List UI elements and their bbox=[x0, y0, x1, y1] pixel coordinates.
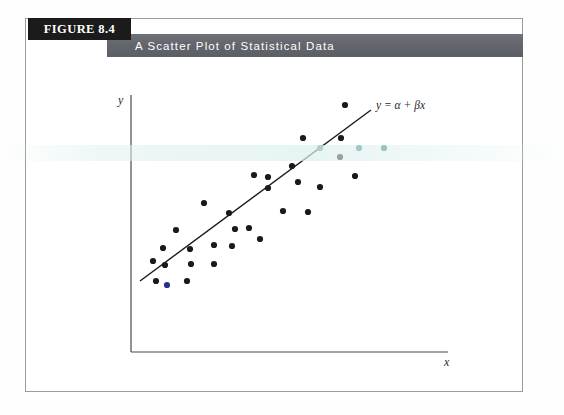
data-point bbox=[352, 173, 358, 179]
regression-line bbox=[140, 110, 371, 281]
data-point bbox=[211, 261, 217, 267]
plot-axes bbox=[131, 95, 448, 352]
data-points bbox=[150, 102, 387, 288]
figure-caption-text: A Scatter Plot of Statistical Data bbox=[107, 40, 335, 52]
figure-number-tag: FIGURE 8.4 bbox=[28, 18, 131, 40]
data-point bbox=[153, 278, 159, 284]
data-point bbox=[337, 154, 343, 160]
x-axis-label: x bbox=[443, 355, 450, 369]
data-point bbox=[188, 261, 194, 267]
plot-labels: yxy = α + βx bbox=[117, 93, 450, 369]
data-point bbox=[317, 184, 323, 190]
figure-number-label: FIGURE 8.4 bbox=[44, 22, 115, 37]
data-point bbox=[257, 236, 263, 242]
data-point bbox=[164, 282, 170, 288]
regression-line-segment bbox=[140, 110, 371, 281]
data-point bbox=[381, 145, 387, 151]
data-point bbox=[211, 242, 217, 248]
data-point bbox=[184, 278, 190, 284]
data-point bbox=[356, 145, 362, 151]
y-axis-label: y bbox=[117, 93, 124, 107]
data-point bbox=[201, 200, 207, 206]
data-point bbox=[162, 262, 168, 268]
data-point bbox=[338, 135, 344, 141]
data-point bbox=[342, 102, 348, 108]
data-point bbox=[289, 163, 295, 169]
data-point bbox=[317, 145, 323, 151]
data-point bbox=[251, 172, 257, 178]
data-point bbox=[265, 185, 271, 191]
regression-equation-label: y = α + βx bbox=[375, 99, 426, 112]
data-point bbox=[280, 208, 286, 214]
data-point bbox=[173, 227, 179, 233]
figure-page: FIGURE 8.4 A Scatter Plot of Statistical… bbox=[0, 0, 564, 415]
data-point bbox=[150, 258, 156, 264]
data-point bbox=[232, 226, 238, 232]
data-point bbox=[246, 225, 252, 231]
data-point bbox=[305, 209, 311, 215]
data-point bbox=[300, 135, 306, 141]
data-point bbox=[295, 179, 301, 185]
scatter-plot: yxy = α + βx bbox=[25, 57, 523, 392]
data-point bbox=[160, 245, 166, 251]
figure-caption-bar: A Scatter Plot of Statistical Data bbox=[107, 34, 523, 57]
data-point bbox=[226, 210, 232, 216]
data-point bbox=[229, 243, 235, 249]
scatter-plot-svg: yxy = α + βx bbox=[25, 57, 523, 392]
data-point bbox=[187, 246, 193, 252]
data-point bbox=[265, 174, 271, 180]
